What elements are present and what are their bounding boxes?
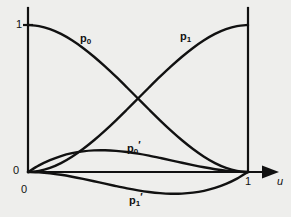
curve-label-p0-base: p: [80, 32, 87, 44]
curve-label-p0-prime-mark: ′: [138, 140, 140, 151]
curve-label-p1-prime-mark: ′: [140, 192, 142, 203]
curve-label-p1-prime: p1′: [129, 195, 143, 206]
x-axis-title: u: [277, 176, 283, 187]
curve-label-p1-subscript: 1: [187, 35, 191, 44]
y-axis-tick-label-one: 1: [16, 19, 22, 30]
x-axis-tick-label-zero: 0: [21, 184, 27, 195]
y-axis-tick-label-zero: 0: [13, 165, 19, 176]
curve-p1-prime: [28, 172, 248, 194]
curve-label-p1-prime-base: p: [129, 194, 136, 206]
curve-label-p0-prime-base: p: [127, 142, 134, 154]
curve-label-p1: p1: [180, 31, 191, 42]
curve-label-p0-prime: p0′: [127, 143, 141, 154]
curve-label-p0: p0: [80, 33, 91, 44]
curve-label-p0-subscript: 0: [87, 37, 91, 46]
curve-label-p1-base: p: [180, 30, 187, 42]
figure-container: 1 0 0 1 u p0 p1 p0′ p1′: [0, 0, 291, 217]
x-axis-tick-label-one: 1: [245, 176, 251, 187]
